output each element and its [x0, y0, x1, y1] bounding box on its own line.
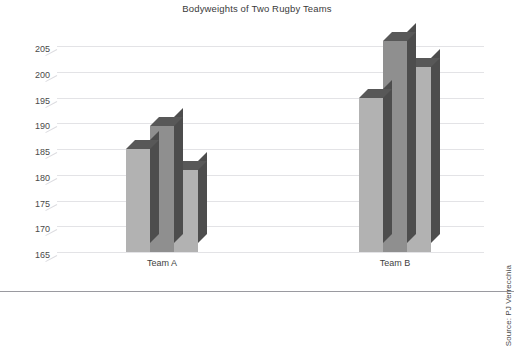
bar-team-b-series-1 — [359, 98, 383, 252]
plot-area — [57, 36, 484, 252]
gridline — [57, 252, 484, 253]
x-axis-label-team-b: Team B — [355, 258, 435, 268]
gridline — [57, 46, 484, 47]
bar-front-face — [126, 149, 150, 252]
y-axis-tick-label: 165 — [2, 250, 50, 260]
bar-side-face — [150, 131, 159, 243]
y-axis-tick-label: 175 — [2, 199, 50, 209]
source-annotation: Source: PJ Verrecchia — [504, 265, 513, 346]
bar-side-face — [431, 49, 440, 243]
y-axis-tick-label: 195 — [2, 96, 50, 106]
y-axis-tick-label: 200 — [2, 70, 50, 80]
y-axis-tick-label: 190 — [2, 121, 50, 131]
y-axis-tick-label: 185 — [2, 147, 50, 157]
y-axis: 165170175180185190195200205 — [0, 36, 50, 252]
bar-side-face — [407, 23, 416, 243]
chart-title: Bodyweights of Two Rugby Teams — [0, 3, 514, 14]
y-axis-tick-label: 170 — [2, 224, 50, 234]
y-axis-tick-label: 180 — [2, 173, 50, 183]
bar-front-face — [359, 98, 383, 252]
bar-side-face — [174, 108, 183, 243]
y-axis-tick-label: 205 — [2, 44, 50, 54]
x-axis-label-team-a: Team A — [122, 258, 202, 268]
bar-side-face — [383, 80, 392, 243]
bar-team-a-series-1 — [126, 149, 150, 252]
